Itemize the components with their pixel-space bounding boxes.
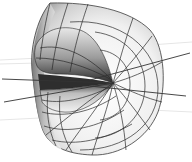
lips-3d-model-figure: [0, 0, 192, 162]
lips-model-svg: [0, 0, 192, 162]
